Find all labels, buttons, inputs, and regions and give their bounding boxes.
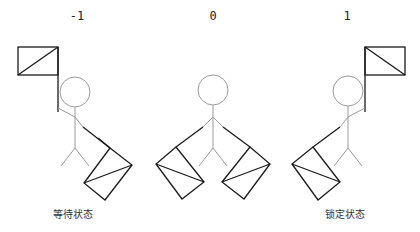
flag-square-icon xyxy=(292,147,340,200)
flag-icon xyxy=(18,47,58,112)
flag-square-icon xyxy=(84,138,132,200)
stick-figures xyxy=(0,0,420,232)
caption-waiting: 等待状态 xyxy=(53,206,93,221)
flag-icon xyxy=(365,47,405,112)
figure-locked xyxy=(292,47,405,200)
head-icon xyxy=(198,75,228,105)
head-icon xyxy=(333,76,363,106)
figure-waiting xyxy=(18,47,132,200)
flag-square-icon xyxy=(222,147,270,199)
flag-square-icon xyxy=(156,147,204,199)
figure-neutral xyxy=(156,75,270,199)
caption-locked: 锁定状态 xyxy=(325,206,365,221)
semaphore-diagram: -1 0 1 xyxy=(0,0,420,232)
head-icon xyxy=(60,77,90,107)
